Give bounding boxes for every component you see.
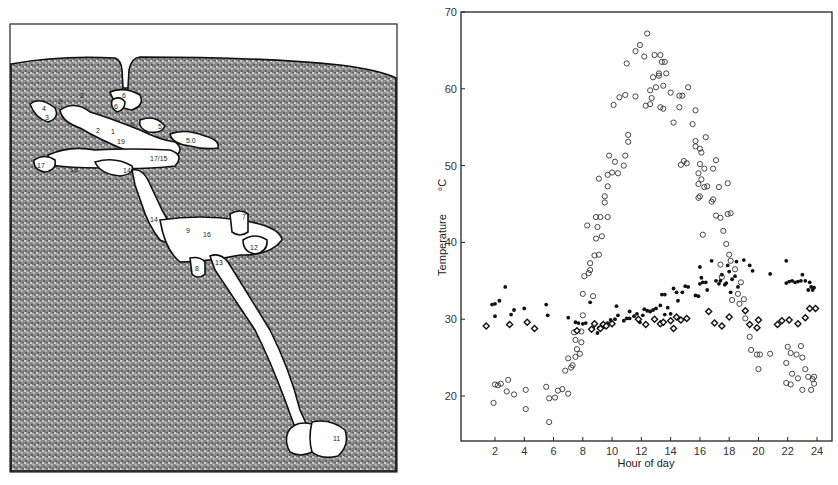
data-point <box>714 279 718 283</box>
data-point <box>754 325 760 331</box>
data-point <box>547 396 552 401</box>
data-point <box>483 323 489 329</box>
data-point <box>588 300 592 304</box>
svg-text:17: 17 <box>37 162 45 169</box>
data-point <box>579 340 584 345</box>
data-point <box>544 384 549 389</box>
data-point <box>699 276 703 280</box>
data-point <box>806 288 810 292</box>
svg-text:1: 1 <box>111 128 115 135</box>
data-point <box>668 90 673 95</box>
data-point <box>774 322 780 328</box>
data-point <box>755 317 761 323</box>
y-tick-label: 70 <box>445 6 457 18</box>
data-point <box>641 313 645 317</box>
data-point <box>658 52 663 57</box>
burrow-diagram: 4 3 3 2 2 1 6 6 6 5 5.0 19 17/15 17 18 1… <box>0 0 419 485</box>
data-point <box>563 368 568 373</box>
data-point <box>703 135 708 140</box>
data-point <box>672 287 676 291</box>
svg-text:2: 2 <box>80 92 84 99</box>
data-point <box>812 286 816 290</box>
data-point <box>605 184 610 189</box>
data-point <box>730 277 734 281</box>
data-point <box>747 334 752 339</box>
data-point <box>547 420 552 425</box>
data-point <box>628 310 632 314</box>
x-tick-label: 24 <box>811 445 823 457</box>
burrow-diagram-panel: 4 3 3 2 2 1 6 6 6 5 5.0 19 17/15 17 18 1… <box>0 0 419 485</box>
data-point <box>654 307 658 311</box>
data-point <box>719 279 723 283</box>
svg-text:6: 6 <box>130 121 134 128</box>
data-point <box>504 389 509 394</box>
data-point <box>802 315 808 321</box>
svg-text:2: 2 <box>96 127 100 134</box>
y-tick-label: 50 <box>445 160 457 172</box>
data-point <box>596 331 600 335</box>
data-point <box>621 163 626 168</box>
data-point <box>736 285 740 289</box>
data-point <box>735 291 740 296</box>
data-point <box>532 325 538 331</box>
data-point <box>686 85 691 90</box>
data-point <box>671 120 676 125</box>
plot-frame <box>461 12 832 441</box>
data-point <box>786 317 792 323</box>
data-point <box>615 171 620 176</box>
y-tick-label: 60 <box>445 83 457 95</box>
x-axis-label: Hour of day <box>618 457 675 469</box>
x-tick-label: 8 <box>580 445 586 457</box>
data-point <box>690 122 695 127</box>
data-point <box>698 265 702 269</box>
data-point <box>616 313 620 317</box>
svg-text:8: 8 <box>195 265 199 272</box>
data-point <box>799 279 803 283</box>
chart-axes: 20304050607024681012141618202224 <box>445 6 832 457</box>
data-point <box>724 281 728 285</box>
x-tick-label: 12 <box>635 445 647 457</box>
data-point <box>712 320 718 326</box>
svg-text:5: 5 <box>158 123 162 130</box>
data-point <box>671 325 677 331</box>
data-point <box>808 280 812 284</box>
data-point <box>790 371 795 376</box>
data-point <box>650 75 655 80</box>
data-point <box>813 305 819 311</box>
svg-text:19: 19 <box>117 138 125 145</box>
data-point <box>623 153 628 158</box>
data-point <box>524 319 530 325</box>
data-point <box>699 177 704 182</box>
data-point <box>633 49 638 54</box>
data-point <box>497 299 501 303</box>
data-point <box>684 315 690 321</box>
data-point <box>577 351 582 356</box>
svg-text:7: 7 <box>242 213 246 220</box>
data-point <box>649 95 654 100</box>
data-point <box>590 294 595 299</box>
data-point <box>788 350 793 355</box>
data-point <box>768 272 772 276</box>
data-point <box>552 395 557 400</box>
data-point <box>566 391 571 396</box>
data-point <box>503 285 507 289</box>
series-filled-dot <box>490 258 816 335</box>
data-point <box>785 344 790 349</box>
data-point <box>609 170 614 175</box>
x-tick-label: 16 <box>694 445 706 457</box>
data-point <box>652 316 658 322</box>
data-point <box>580 291 585 296</box>
svg-text:4: 4 <box>42 105 46 112</box>
data-point <box>509 313 513 317</box>
x-tick-label: 6 <box>550 445 556 457</box>
svg-text:5.0: 5.0 <box>186 137 196 144</box>
data-point <box>675 290 679 294</box>
svg-text:9: 9 <box>186 227 190 234</box>
data-point <box>730 297 735 302</box>
data-point <box>607 153 612 158</box>
data-point <box>727 270 731 274</box>
data-point <box>642 54 647 59</box>
data-point <box>566 356 571 361</box>
data-point <box>784 259 788 263</box>
data-point <box>697 194 702 199</box>
